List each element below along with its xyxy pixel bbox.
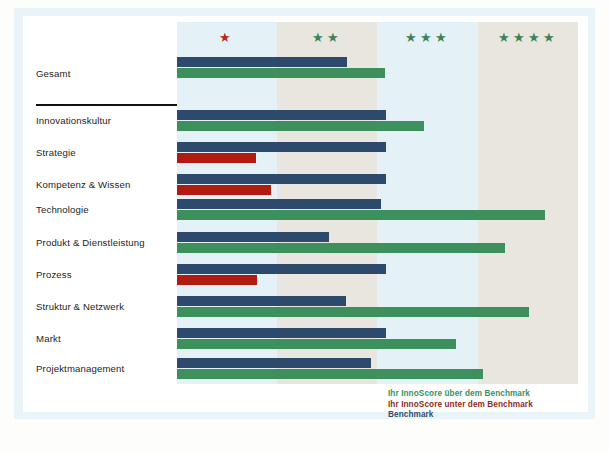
innoscore-bar-below: [177, 275, 257, 285]
category-label: Projektmanagement: [36, 363, 124, 374]
chart-page: ★★★★★★★★★★GesamtInnovationskulturStrateg…: [0, 0, 609, 453]
band-star-label-1: ★: [177, 28, 277, 48]
category-label: Gesamt: [36, 68, 71, 79]
legend-item: Ihr InnoScore unter dem Benchmark: [388, 400, 533, 411]
innoscore-bar-above: [177, 68, 386, 78]
innoscore-bar-above: [177, 210, 545, 220]
benchmark-bar: [177, 110, 387, 120]
benchmark-bar: [177, 358, 372, 368]
innoscore-bar-below: [177, 153, 256, 163]
innoscore-bar-below: [177, 185, 271, 195]
rating-band-3-star: [377, 22, 477, 384]
category-label: Kompetenz & Wissen: [36, 179, 130, 190]
category-label: Innovationskultur: [36, 115, 111, 126]
benchmark-bar: [177, 296, 347, 306]
category-label: Markt: [36, 333, 61, 344]
chart-legend: Ihr InnoScore über dem BenchmarkIhr Inno…: [388, 389, 533, 421]
benchmark-bar: [177, 328, 387, 338]
benchmark-bar: [177, 232, 330, 242]
innoscore-benchmark-chart: ★★★★★★★★★★GesamtInnovationskulturStrateg…: [0, 0, 609, 453]
benchmark-bar: [177, 142, 387, 152]
benchmark-bar: [177, 174, 387, 184]
legend-item: Ihr InnoScore über dem Benchmark: [388, 389, 533, 400]
innoscore-bar-above: [177, 369, 483, 379]
innoscore-bar-above: [177, 243, 505, 253]
rating-band-4-star: [478, 22, 578, 384]
legend-item: Benchmark: [388, 410, 533, 421]
category-label: Technologie: [36, 204, 89, 215]
category-label: Struktur & Netzwerk: [36, 301, 124, 312]
innoscore-bar-above: [177, 121, 425, 131]
innoscore-bar-above: [177, 339, 456, 349]
category-label: Produkt & Dienstleistung: [36, 237, 145, 248]
benchmark-bar: [177, 57, 348, 67]
benchmark-bar: [177, 264, 387, 274]
category-label: Prozess: [36, 269, 72, 280]
band-star-label-2: ★★: [277, 28, 377, 48]
band-star-label-3: ★★★: [377, 28, 477, 48]
innoscore-bar-above: [177, 307, 529, 317]
benchmark-bar: [177, 199, 382, 209]
category-label: Strategie: [36, 147, 76, 158]
band-star-label-4: ★★★★: [478, 28, 578, 48]
